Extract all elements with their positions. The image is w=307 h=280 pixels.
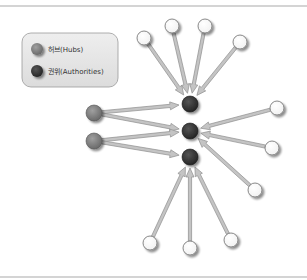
edge-arrow-t4-to-a1 [197,46,237,95]
edge-arrow-r2-to-a2 [201,131,266,148]
edge-arrow-h1-to-a2 [102,113,180,131]
hubs-authorities-diagram: 허브(Hubs) 권위(Authorities) [0,0,307,280]
hub-node-h2 [86,133,102,149]
edge-arrow-t3-to-a1 [190,33,205,94]
legend: 허브(Hubs) 권위(Authorities) [22,33,118,87]
page-node-t2 [165,19,179,33]
edge-arrow-b3-to-a3 [195,167,229,235]
page-node-t3 [198,19,212,33]
edge-arrow-b2-to-a3 [186,168,194,241]
legend-authority-label: 권위(Authorities) [48,68,104,76]
page-node-b1 [143,236,157,250]
edge-arrow-h2-to-a2 [102,129,179,142]
edge-arrow-r3-to-a2 [198,138,251,186]
authority-node-a1 [182,96,198,112]
page-node-r1 [270,101,284,115]
page-node-b2 [183,241,197,255]
edge-arrow-h1-to-a1 [102,102,179,114]
page-node-t4 [233,35,247,49]
page-node-r3 [248,183,262,197]
legend-authority-swatch [31,65,43,77]
hub-node-h1 [86,105,102,121]
authority-node-a3 [182,149,198,165]
authority-node-a2 [182,123,198,139]
page-node-t1 [137,31,151,45]
edge-arrow-b1-to-a3 [152,167,186,237]
legend-hub-swatch [31,43,43,55]
edge-arrow-r1-to-a2 [201,108,271,130]
page-node-b3 [224,233,238,247]
legend-hub-label: 허브(Hubs) [48,45,84,54]
page-node-r2 [265,141,279,155]
legend-box [22,33,118,87]
edge-arrow-h2-to-a3 [102,141,180,158]
